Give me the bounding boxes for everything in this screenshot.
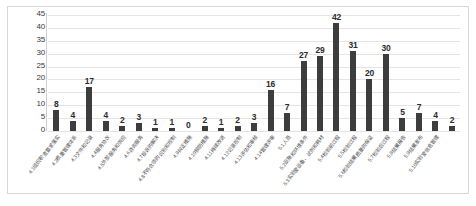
bar-value-label: 30 [381, 44, 390, 53]
y-axis-tick-label: 25 [37, 61, 46, 71]
y-axis-tick-label: 45 [37, 9, 46, 19]
bar-item[interactable]: 3 [246, 15, 262, 131]
bar-rect[interactable] [383, 54, 389, 131]
bar-value-label: 2 [235, 116, 239, 125]
bar-rect[interactable] [416, 113, 422, 131]
bar-rect[interactable] [333, 23, 339, 131]
bar-item[interactable]: 30 [378, 15, 394, 131]
bar-item[interactable]: 2 [444, 15, 460, 131]
y-axis-tick-label: 10 [37, 99, 46, 109]
bar-rect[interactable] [284, 113, 290, 131]
bar-rect[interactable] [251, 123, 257, 131]
chart-container: 454035302520151050 841742311021231672729… [7, 6, 469, 194]
bar-rect[interactable] [317, 56, 323, 131]
bar-item[interactable]: 2 [229, 15, 245, 131]
bar-value-label: 4 [103, 111, 107, 120]
bar-rect[interactable] [136, 123, 142, 131]
bar-value-label: 2 [120, 116, 124, 125]
bar-item[interactable]: 20 [361, 15, 377, 131]
bar-value-label: 7 [285, 103, 289, 112]
y-axis-tick-label: 30 [37, 48, 46, 58]
bar-item[interactable]: 29 [312, 15, 328, 131]
bar-rect[interactable] [202, 126, 208, 131]
bar-rect[interactable] [70, 121, 76, 131]
y-axis-tick-label: 20 [37, 73, 46, 83]
bar-item[interactable]: 2 [114, 15, 130, 131]
bar-rect[interactable] [449, 126, 455, 131]
x-axis-label-slot: 4.6咨询服务 [130, 133, 146, 195]
x-axis-label-slot: 5.3实验室设备、试剂和耗材 [312, 133, 328, 195]
x-axis-labels: 4.1组织职责要求落实4.2质量管理体系4.3文件和记录4.4服务协议4.5外部… [48, 133, 460, 195]
bar-value-label: 1 [169, 118, 173, 127]
gridline [48, 131, 460, 132]
x-axis-label-slot: 5.7检验后过程 [378, 133, 394, 195]
bar-item[interactable]: 1 [213, 15, 229, 131]
bar-value-label: 3 [252, 113, 256, 122]
bar-rect[interactable] [169, 128, 175, 131]
bar-item[interactable]: 2 [196, 15, 212, 131]
bar-value-label: 0 [186, 121, 190, 130]
bar-item[interactable]: 4 [97, 15, 113, 131]
bar-series: 841742311021231672729423120305742 [48, 15, 460, 131]
bar-item[interactable]: 8 [48, 15, 64, 131]
bar-rect[interactable] [432, 121, 438, 131]
bar-value-label: 4 [71, 111, 75, 120]
bar-item[interactable]: 1 [163, 15, 179, 131]
x-axis-label-slot: 4.9纠正措施 [180, 133, 196, 195]
bar-rect[interactable] [399, 118, 405, 131]
x-axis-label-slot: 5.8结果报告 [394, 133, 410, 195]
bar-rect[interactable] [235, 126, 241, 131]
bar-value-label: 2 [202, 116, 206, 125]
bar-rect[interactable] [103, 121, 109, 131]
x-axis-label-slot [444, 133, 460, 195]
bar-value-label: 2 [450, 116, 454, 125]
bar-value-label: 31 [349, 41, 358, 50]
bar-item[interactable]: 3 [130, 15, 146, 131]
x-axis-label-slot: 4.5外部服务和供应 [114, 133, 130, 195]
x-axis-category-label: 5.1人员 [276, 134, 291, 151]
x-axis-label-slot: 5.6检验结果质量的保证 [361, 133, 377, 195]
y-axis-tick-label: 40 [37, 22, 46, 32]
bar-value-label: 42 [332, 13, 341, 22]
plot-area: 454035302520151050 841742311021231672729… [48, 15, 460, 131]
bar-rect[interactable] [119, 126, 125, 131]
bar-item[interactable]: 7 [279, 15, 295, 131]
bar-value-label: 17 [85, 77, 94, 86]
bar-rect[interactable] [366, 79, 372, 131]
bar-value-label: 5 [400, 108, 404, 117]
bar-rect[interactable] [268, 90, 274, 131]
bar-rect[interactable] [53, 110, 59, 131]
bar-rect[interactable] [301, 61, 307, 131]
x-axis-label-slot: 4.3文件和记录 [81, 133, 97, 195]
x-axis-label-slot: 5.10实验室信息管理 [427, 133, 443, 195]
bar-value-label: 20 [365, 69, 374, 78]
bar-item[interactable]: 42 [328, 15, 344, 131]
x-axis-label-slot: 4.14管理评审 [262, 133, 278, 195]
bar-rect[interactable] [350, 51, 356, 131]
bar-item[interactable]: 4 [64, 15, 80, 131]
y-axis-tick-label: 35 [37, 35, 46, 45]
bar-rect[interactable] [152, 128, 158, 131]
x-axis-label-slot: 4.11持续改进 [213, 133, 229, 195]
bar-value-label: 16 [266, 80, 275, 89]
bar-value-label: 7 [417, 103, 421, 112]
bar-item[interactable]: 31 [345, 15, 361, 131]
bar-item[interactable]: 27 [295, 15, 311, 131]
bar-value-label: 29 [316, 46, 325, 55]
bar-value-label: 4 [433, 111, 437, 120]
y-axis-tick-label: 0 [41, 125, 45, 135]
x-axis-label-slot: 5.4检验前过程 [328, 133, 344, 195]
bar-item[interactable]: 0 [180, 15, 196, 131]
y-axis-line [46, 13, 47, 131]
x-axis-label-slot: 4.2质量管理体系 [64, 133, 80, 195]
bar-item[interactable]: 17 [81, 15, 97, 131]
bar-item[interactable]: 7 [411, 15, 427, 131]
bar-item[interactable]: 16 [262, 15, 278, 131]
bar-rect[interactable] [86, 87, 92, 131]
bar-rect[interactable] [218, 128, 224, 131]
bar-value-label: 8 [54, 100, 58, 109]
bar-item[interactable]: 1 [147, 15, 163, 131]
bar-item[interactable]: 4 [427, 15, 443, 131]
bar-item[interactable]: 5 [394, 15, 410, 131]
y-axis-tick-label: 15 [37, 86, 46, 96]
